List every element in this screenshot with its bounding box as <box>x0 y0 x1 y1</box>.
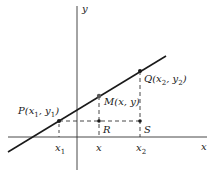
diagram-canvas <box>0 0 215 175</box>
label-m: M(x, y) <box>104 97 140 107</box>
point-p <box>57 119 61 123</box>
label-s: S <box>144 125 151 135</box>
label-r: R <box>103 125 111 135</box>
tick-label-x1: x1 <box>55 143 65 156</box>
tick-label-x2: x2 <box>136 143 146 156</box>
x-axis-label: x <box>201 142 207 152</box>
y-axis-label: y <box>82 4 88 14</box>
point-s <box>138 119 142 123</box>
tick-label-x: x <box>96 143 102 153</box>
point-m <box>97 94 101 98</box>
point-r <box>97 119 101 123</box>
label-p: P(x1, y1) <box>18 106 59 119</box>
label-q: Q(x2, y2) <box>144 74 187 87</box>
line-pq <box>8 56 166 152</box>
dashed-vertical-x1 <box>59 121 137 137</box>
point-q <box>138 69 142 73</box>
